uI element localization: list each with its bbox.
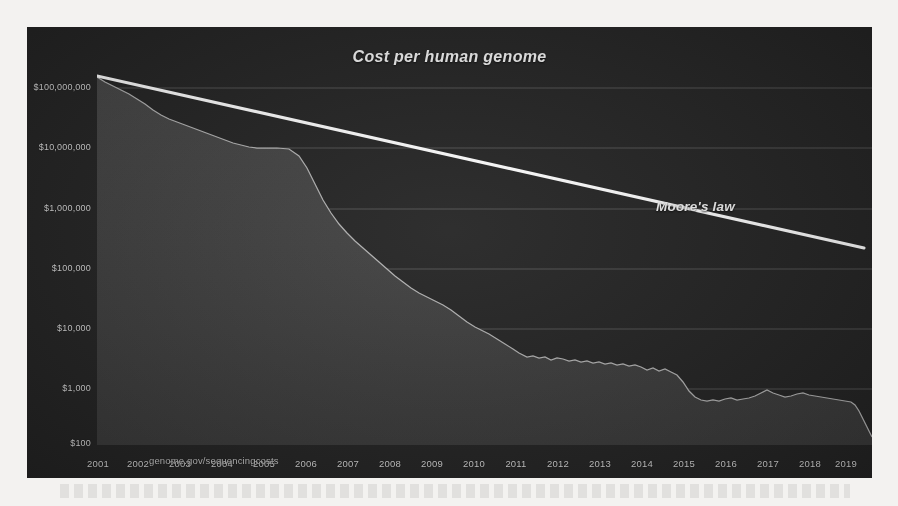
- xtick-label: 2010: [454, 458, 494, 469]
- xtick-label: 2012: [538, 458, 578, 469]
- ytick-label: $10,000,000: [39, 142, 91, 152]
- chart-figure: $100,000,000 $10,000,000 $1,000,000 $100…: [27, 27, 872, 478]
- scan-bleed-artifact: [60, 484, 850, 498]
- ytick-label: $1,000,000: [44, 203, 91, 213]
- xtick-label: 2009: [412, 458, 452, 469]
- xtick-label: 2015: [664, 458, 704, 469]
- xtick-label: 2011: [496, 458, 536, 469]
- ytick-label: $100,000: [52, 263, 91, 273]
- ytick-label: $100: [70, 438, 91, 448]
- xtick-label: 2019: [826, 458, 866, 469]
- moores-law-annotation: Moore's law: [656, 199, 735, 214]
- chart-title: Cost per human genome: [27, 48, 872, 66]
- xtick-label: 2008: [370, 458, 410, 469]
- ytick-label: $10,000: [57, 323, 91, 333]
- xtick-label: 2017: [748, 458, 788, 469]
- source-url-label: genome.gov/sequencingcosts: [149, 455, 279, 466]
- ytick-label: $1,000: [62, 383, 91, 393]
- chart-plot-svg: [27, 27, 872, 478]
- xtick-label: 2001: [78, 458, 118, 469]
- xtick-label: 2006: [286, 458, 326, 469]
- xtick-label: 2016: [706, 458, 746, 469]
- xtick-label: 2014: [622, 458, 662, 469]
- xtick-label: 2018: [790, 458, 830, 469]
- ytick-label: $100,000,000: [34, 82, 91, 92]
- xtick-label: 2007: [328, 458, 368, 469]
- page-root: $100,000,000 $10,000,000 $1,000,000 $100…: [0, 0, 898, 506]
- xtick-label: 2013: [580, 458, 620, 469]
